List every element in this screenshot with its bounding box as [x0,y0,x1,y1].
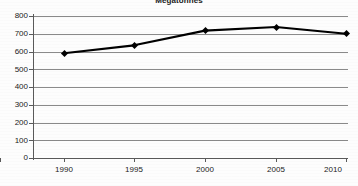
x-axis-tick [346,158,347,162]
y-axis-tick [29,52,33,53]
x-axis-tick [205,158,206,162]
gridline [33,52,348,53]
y-axis-tick [29,34,33,35]
gridline [33,87,348,88]
y-axis-tick-label: 800 [2,12,28,20]
gridline [33,34,348,35]
x-axis-tick-label: 2005 [256,165,296,174]
plot-area [33,16,348,158]
x-axis-tick-label: 2010 [313,165,353,174]
x-axis-tick [64,158,65,162]
y-axis-tick-label: 600 [2,48,28,56]
y-axis-tick-label: 300 [2,101,28,109]
y-axis-tick [29,105,33,106]
x-axis-line [33,158,348,159]
x-axis-tick [0,158,1,162]
y-axis-tick [29,140,33,141]
y-axis-tick [29,16,33,17]
y-axis-tick-label: 700 [2,30,28,38]
gridline [33,140,348,141]
x-axis-tick-label: 1990 [44,165,84,174]
y-axis-tick-label: 400 [2,83,28,91]
y-axis-tick [29,123,33,124]
x-axis-tick [134,158,135,162]
y-axis-tick-label: 200 [2,119,28,127]
line-chart: Megatonnes 800 700 600 500 400 300 200 1… [0,0,358,186]
y-axis-tick-label: 100 [2,137,28,145]
x-axis-tick-label: 1995 [114,165,154,174]
x-axis-tick-label: 2000 [185,165,225,174]
gridline [33,123,348,124]
gridline [33,69,348,70]
x-axis-tick [276,158,277,162]
y-axis-line [33,14,34,160]
y-axis-tick [29,69,33,70]
y-axis-tick [29,87,33,88]
y-axis-labels: 800 700 600 500 400 300 200 100 0 [0,0,28,186]
chart-title: Megatonnes [0,0,358,5]
y-axis-tick-label: 500 [2,66,28,74]
gridline [33,16,348,17]
y-axis-tick-label: 0 [2,154,28,162]
gridline [33,105,348,106]
